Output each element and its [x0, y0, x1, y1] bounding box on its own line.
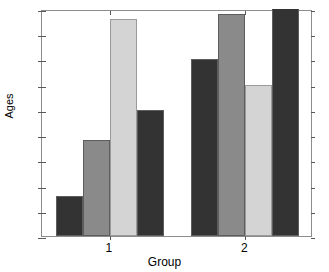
y-tick-mark-right	[311, 112, 315, 113]
x-tick-mark-top	[110, 11, 111, 15]
x-tick-label: 1	[105, 241, 112, 255]
y-tick-mark-right	[311, 87, 315, 88]
bar	[191, 59, 218, 236]
y-tick-mark-inner	[42, 61, 46, 62]
y-axis-label: Ages	[3, 75, 15, 137]
x-tick-mark	[245, 236, 246, 240]
y-tick-mark-right	[311, 162, 315, 163]
bar-chart-figure: Ages 051015202530354045 12 Group	[0, 0, 329, 272]
bar	[272, 9, 299, 236]
y-tick-mark-inner	[42, 36, 46, 37]
bar	[56, 196, 83, 236]
bar	[83, 140, 110, 236]
y-tick-mark-inner	[42, 137, 46, 138]
x-tick-label: 2	[241, 241, 248, 255]
x-axis-label: Group	[0, 255, 329, 269]
y-tick-mark-inner	[42, 188, 46, 189]
x-tick-mark-top	[245, 11, 246, 15]
bars-container	[42, 11, 311, 236]
y-tick-mark-inner	[42, 112, 46, 113]
bar	[137, 110, 164, 236]
y-tick-mark-right	[311, 36, 315, 37]
y-tick-mark-inner	[42, 238, 46, 239]
y-tick-mark-right	[311, 238, 315, 239]
bar	[218, 14, 245, 236]
y-tick-mark-right	[311, 137, 315, 138]
bar	[110, 19, 137, 236]
y-tick-mark-right	[311, 213, 315, 214]
y-tick-mark-right	[311, 11, 315, 12]
x-tick-mark	[110, 236, 111, 240]
y-tick-mark-inner	[42, 11, 46, 12]
y-tick-mark-right	[311, 61, 315, 62]
bar	[245, 85, 272, 236]
plot-area	[41, 10, 312, 237]
y-tick-mark-inner	[42, 162, 46, 163]
y-tick-mark-right	[311, 188, 315, 189]
y-tick-mark-inner	[42, 213, 46, 214]
y-tick-mark-inner	[42, 87, 46, 88]
